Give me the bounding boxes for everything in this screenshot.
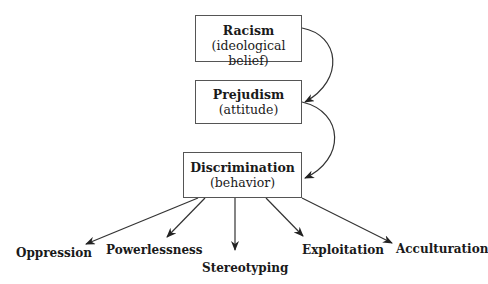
outcome-stereotyping: Stereotyping <box>202 261 288 275</box>
node-subtitle: (ideological belief) <box>196 38 301 68</box>
node-racism: Racism (ideological belief) <box>195 15 302 62</box>
node-subtitle: (attitude) <box>196 102 301 117</box>
node-title: Prejudism <box>196 87 301 102</box>
outcome-powerlessness: Powerlessness <box>106 243 203 257</box>
arrow-to-exploitation <box>266 198 303 236</box>
outcome-oppression: Oppression <box>16 246 92 260</box>
node-title: Discrimination <box>184 160 301 175</box>
outcome-exploitation: Exploitation <box>302 243 384 257</box>
arrow-to-oppression <box>86 198 198 244</box>
curved-arrow-prejudism-to-discrimination <box>302 102 335 178</box>
node-prejudism: Prejudism (attitude) <box>195 80 302 124</box>
arrow-to-acculturation <box>302 198 392 243</box>
node-title: Racism <box>196 23 301 38</box>
node-subtitle: (behavior) <box>184 175 301 190</box>
arrow-to-powerlessness <box>167 198 205 237</box>
outcome-acculturation: Acculturation <box>396 242 488 256</box>
node-discrimination: Discrimination (behavior) <box>183 152 302 198</box>
curved-arrow-racism-to-prejudism <box>302 28 333 102</box>
